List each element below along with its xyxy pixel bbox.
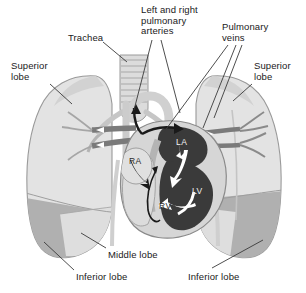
chamber-label-left-ventricle: LV (192, 186, 203, 196)
label-middle-lobe: Middle lobe (108, 250, 158, 261)
label-pulmonary-arteries: Left and right pulmonary arteries (141, 5, 198, 37)
label-trachea: Trachea (68, 33, 103, 44)
descending-vessel-left (112, 160, 118, 246)
leader-trachea (103, 42, 127, 62)
right-atrium-cavity (120, 148, 152, 184)
label-pulmonary-veins: Pulmonary veins (222, 22, 268, 43)
chamber-label-left-atrium: LA (176, 137, 187, 147)
chamber-label-right-atrium: RA (129, 156, 142, 166)
chamber-label-right-ventricle: RV (159, 201, 171, 211)
lung-heart-anatomy-figure: TracheaLeft and right pulmonary arteries… (0, 0, 306, 293)
label-inferior-lobe-left: Inferior lobe (76, 272, 127, 283)
label-superior-lobe-right: Superior lobe (254, 61, 291, 82)
label-superior-lobe-left: Superior lobe (11, 61, 48, 82)
label-inferior-lobe-right: Inferior lobe (188, 272, 239, 283)
left-lung (14, 76, 120, 268)
